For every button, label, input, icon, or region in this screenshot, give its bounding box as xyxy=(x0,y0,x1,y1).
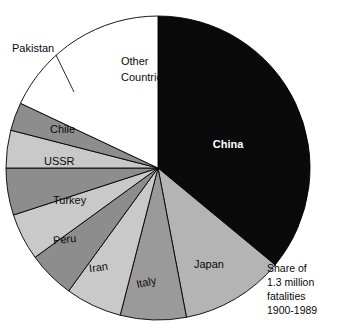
chart-stage: China Japan Italy Iran Peru Turkey USSR … xyxy=(0,0,338,330)
caption-line-3: fatalities xyxy=(267,290,306,302)
caption-line-1: Share of xyxy=(267,262,307,274)
slice-label-chile: Chile xyxy=(50,123,75,135)
pie-wedges-group xyxy=(6,16,310,320)
slice-label-other-countries-line2: Countries xyxy=(121,71,169,83)
slice-label-japan: Japan xyxy=(194,258,224,270)
pie-chart: China Japan Italy Iran Peru Turkey USSR … xyxy=(0,0,338,330)
slice-label-other-countries-line1: Other xyxy=(121,55,149,67)
slice-label-pakistan: Pakistan xyxy=(12,42,54,54)
caption-line-2: 1.3 million xyxy=(267,276,314,288)
slice-label-peru: Peru xyxy=(52,232,76,246)
slice-label-china: China xyxy=(213,138,244,150)
slice-label-ussr: USSR xyxy=(44,155,75,167)
slice-label-turkey: Turkey xyxy=(53,194,87,206)
caption-line-4: 1900-1989 xyxy=(267,304,317,316)
